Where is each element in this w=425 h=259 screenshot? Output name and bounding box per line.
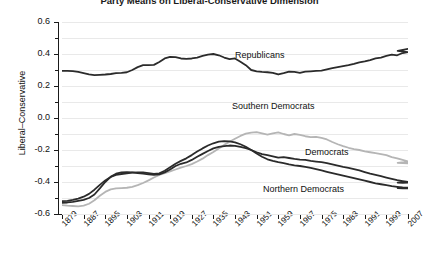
y-tick xyxy=(54,214,59,215)
series-line-democrats xyxy=(62,146,408,203)
chart-title: Party Means on Liberal-Conservative Dime… xyxy=(0,0,419,6)
y-tick-label: 0.0 xyxy=(8,112,50,122)
y-tick xyxy=(54,22,59,23)
y-tick-label: 0.4 xyxy=(8,48,50,58)
series-label-northern-democrats: Northern Democrats xyxy=(263,184,344,194)
y-tick-minor xyxy=(55,38,59,39)
y-tick xyxy=(54,118,59,119)
y-tick-label: -0.6 xyxy=(8,208,50,218)
y-tick-minor xyxy=(55,166,59,167)
y-tick-minor xyxy=(55,198,59,199)
y-tick-label: 0.2 xyxy=(8,80,50,90)
y-tick-minor xyxy=(55,134,59,135)
y-tick xyxy=(54,54,59,55)
y-tick-label: -0.4 xyxy=(8,176,50,186)
y-tick-minor xyxy=(55,70,59,71)
gridline xyxy=(62,214,408,215)
x-tick-label: 2007 xyxy=(406,209,425,228)
series-label-republicans: Republicans xyxy=(235,50,285,60)
y-tick xyxy=(54,150,59,151)
y-tick-label: 0.6 xyxy=(8,16,50,26)
y-tick-minor xyxy=(55,102,59,103)
y-tick-label: -0.2 xyxy=(8,144,50,154)
y-tick xyxy=(54,182,59,183)
y-tick xyxy=(54,86,59,87)
series-label-democrats: Democrats xyxy=(305,147,349,157)
series-label-southern-democrats: Southern Democrats xyxy=(232,101,315,111)
